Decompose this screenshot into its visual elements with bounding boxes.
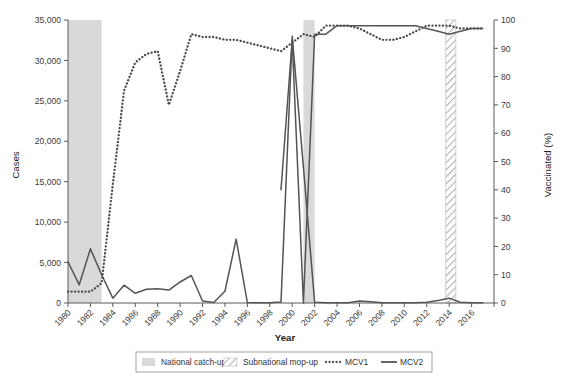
y2-tick-label: 100 bbox=[501, 15, 516, 25]
x-axis: 1980198219841986198819901992199419961998… bbox=[52, 303, 494, 328]
y2-tick-label: 30 bbox=[501, 213, 511, 223]
y-tick-label: 10,000 bbox=[35, 217, 62, 227]
y2-tick-label: 50 bbox=[501, 157, 511, 167]
y-tick-label: 0 bbox=[56, 298, 61, 308]
y-axis-vaccinated: 0102030405060708090100 bbox=[494, 15, 516, 308]
x-tick-label: 2002 bbox=[299, 307, 320, 328]
x-tick-label: 1988 bbox=[142, 307, 163, 328]
measles-cases-and-vaccination-coverage-chart: 1980198219841986198819901992199419961998… bbox=[0, 0, 566, 384]
y-tick-label: 20,000 bbox=[35, 136, 62, 146]
y2-tick-label: 20 bbox=[501, 242, 511, 252]
y-tick-label: 5,000 bbox=[39, 258, 61, 268]
chart-figure: 1980198219841986198819901992199419961998… bbox=[0, 0, 566, 384]
y2-tick-label: 60 bbox=[501, 128, 511, 138]
x-tick-label: 2010 bbox=[389, 307, 410, 328]
y-axis-cases: 05,00010,00015,00020,00025,00030,00035,0… bbox=[35, 15, 68, 308]
y2-tick-label: 0 bbox=[501, 298, 506, 308]
y-axis-label: Cases bbox=[10, 151, 21, 178]
y-tick-label: 30,000 bbox=[35, 56, 62, 66]
x-tick-label: 1994 bbox=[209, 307, 230, 328]
data-series bbox=[68, 26, 483, 303]
series-line-mcv1 bbox=[68, 26, 483, 292]
legend-label-subnational-mop-up: Subnational mop-up bbox=[243, 357, 318, 367]
legend-swatch-subnational-mop-up bbox=[224, 358, 237, 366]
y2-tick-label: 70 bbox=[501, 100, 511, 110]
x-tick-label: 1984 bbox=[97, 307, 118, 328]
y-tick-label: 35,000 bbox=[35, 15, 62, 25]
legend-swatch-national-catch-up bbox=[142, 358, 155, 366]
x-tick-label: 1998 bbox=[254, 307, 275, 328]
x-tick-label: 2006 bbox=[344, 307, 365, 328]
legend-label-mcv2: MCV2 bbox=[400, 357, 424, 367]
x-tick-label: 1986 bbox=[120, 307, 141, 328]
y2-tick-label: 90 bbox=[501, 44, 511, 54]
y-tick-label: 15,000 bbox=[35, 177, 62, 187]
x-tick-label: 1996 bbox=[232, 307, 253, 328]
x-tick-label: 2008 bbox=[366, 307, 387, 328]
x-tick-label: 1992 bbox=[187, 307, 208, 328]
x-tick-label: 2000 bbox=[277, 307, 298, 328]
subnational-mop-up-band bbox=[446, 20, 456, 303]
y2-axis-label: Vaccinated (%) bbox=[542, 133, 553, 197]
plot-bands bbox=[68, 20, 456, 303]
x-tick-label: 1980 bbox=[52, 307, 73, 328]
x-tick-label: 2014 bbox=[433, 307, 454, 328]
x-tick-label: 2016 bbox=[456, 307, 477, 328]
y-tick-label: 25,000 bbox=[35, 96, 62, 106]
chart-legend: National catch-upSubnational mop-upMCV1M… bbox=[136, 352, 432, 372]
x-tick-label: 2004 bbox=[321, 307, 342, 328]
x-tick-label: 2012 bbox=[411, 307, 432, 328]
legend-label-national-catch-up: National catch-up bbox=[161, 357, 227, 367]
x-axis-label: Year bbox=[275, 332, 296, 343]
y2-tick-label: 80 bbox=[501, 72, 511, 82]
y2-tick-label: 10 bbox=[501, 270, 511, 280]
legend-label-mcv1: MCV1 bbox=[345, 357, 369, 367]
y2-tick-label: 40 bbox=[501, 185, 511, 195]
x-tick-label: 1990 bbox=[164, 307, 185, 328]
national-catch-up-band bbox=[68, 20, 102, 303]
x-tick-label: 1982 bbox=[75, 307, 96, 328]
